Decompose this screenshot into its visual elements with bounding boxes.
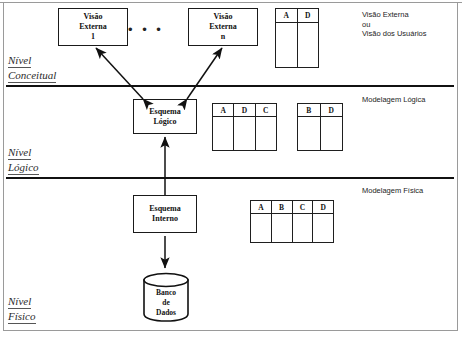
annotation-line-2: ou	[362, 20, 426, 30]
ellipsis-more-views: • • •	[128, 23, 164, 36]
frame-bottom-border	[4, 330, 458, 331]
annotation-line-3: Visão dos Usuários	[362, 29, 426, 39]
annotation-line-1: Modelagem Física	[362, 186, 423, 196]
table-cell-body	[276, 23, 298, 67]
table-cell-body	[256, 117, 276, 150]
database-label-line1: Banco	[143, 288, 189, 298]
annotation-visao-externa-usuarios: Visão Externa ou Visão dos Usuários	[362, 10, 426, 39]
box-visao-externa-1-line2: Externa	[79, 22, 107, 32]
box-visao-externa-n-line1: Visão	[214, 12, 233, 22]
level-label-logico-line1: Nível	[8, 146, 31, 160]
table-tabela-logica-1-body	[213, 117, 276, 150]
table-cell-header: A	[276, 9, 298, 22]
level-label-logico-line2: Lógico	[8, 161, 39, 175]
box-visao-externa-1-line3: 1	[91, 32, 95, 42]
table-cell-body	[321, 117, 343, 150]
table-cell-body	[293, 214, 314, 242]
diagram-canvas: Nível Conceitual Nível Lógico Nível Físi…	[0, 0, 462, 339]
divider-logico-fisico	[6, 177, 454, 179]
frame-left-border	[3, 2, 4, 331]
box-visao-externa-n-line2: Externa	[209, 22, 237, 32]
table-cell-header: A	[251, 201, 272, 213]
annotation-line-1: Modelagem Lógica	[362, 95, 425, 105]
level-label-fisico-line1: Nível	[8, 295, 31, 309]
box-esquema-interno-line1: Esquema	[149, 204, 181, 214]
level-label-fisico: Nível Físico	[8, 295, 36, 325]
table-cell-header: D	[298, 9, 319, 22]
annotation-line-1: Visão Externa	[362, 10, 426, 20]
table-cell-header: C	[256, 104, 276, 116]
database-label-line2: de	[143, 298, 189, 308]
table-cell-header: B	[272, 201, 293, 213]
arrow-layer: Visao Externa 1 (double headed, diagonal…	[0, 0, 462, 339]
level-label-conceitual: Nível Conceitual	[8, 54, 56, 84]
box-visao-externa-n-line3: n	[221, 32, 225, 42]
table-tabela-logica-2-body	[298, 117, 342, 150]
box-visao-externa-n[interactable]: Visão Externa n	[188, 8, 258, 46]
table-cell-header: D	[234, 104, 255, 116]
annotation-modelagem-logica: Modelagem Lógica	[362, 95, 425, 105]
table-cell-header: A	[213, 104, 234, 116]
box-esquema-interno-line2: Interno	[152, 214, 178, 224]
table-tabela-externa: A D	[275, 8, 319, 68]
level-label-logico: Nível Lógico	[8, 146, 39, 176]
table-cell-body	[272, 214, 293, 242]
table-tabela-fisica-header: A B C D	[251, 201, 333, 214]
table-cell-body	[298, 23, 319, 67]
table-cell-header: C	[293, 201, 314, 213]
table-cell-header: D	[321, 104, 343, 116]
table-cell-body	[234, 117, 255, 150]
annotation-modelagem-fisica: Modelagem Física	[362, 186, 423, 196]
box-visao-externa-1-line1: Visão	[84, 12, 103, 22]
database-cylinder: Banco de Dados	[143, 272, 189, 322]
table-tabela-fisica: A B C D	[250, 200, 334, 243]
table-cell-header: D	[313, 201, 333, 213]
box-esquema-logico-line2: Lógico	[153, 117, 176, 127]
table-tabela-externa-header: A D	[276, 9, 318, 23]
level-label-fisico-line2: Físico	[8, 310, 36, 324]
table-tabela-externa-body	[276, 23, 318, 67]
box-esquema-logico-line1: Esquema	[149, 107, 181, 117]
database-label-line3: Dados	[143, 308, 189, 318]
table-cell-body	[298, 117, 321, 150]
box-visao-externa-1[interactable]: Visão Externa 1	[58, 8, 128, 46]
box-esquema-interno[interactable]: Esquema Interno	[133, 195, 197, 233]
table-cell-body	[313, 214, 333, 242]
arrow-logico-to-visao1	[96, 48, 143, 99]
table-tabela-logica-1-header: A D C	[213, 104, 276, 117]
box-esquema-logico[interactable]: Esquema Lógico	[133, 99, 197, 134]
table-tabela-logica-2-header: B D	[298, 104, 342, 117]
table-tabela-logica-1: A D C	[212, 103, 277, 151]
frame-right-border	[457, 2, 458, 331]
divider-conceitual-logico	[6, 85, 454, 87]
table-cell-body	[213, 117, 234, 150]
level-label-conceitual-line1: Nível	[8, 54, 31, 68]
frame-top-border	[0, 2, 462, 3]
level-label-conceitual-line2: Conceitual	[8, 69, 56, 83]
table-cell-body	[251, 214, 272, 242]
arrow-logico-to-visaon	[187, 48, 222, 99]
table-cell-header: B	[298, 104, 321, 116]
table-tabela-logica-2: B D	[297, 103, 343, 151]
table-tabela-fisica-body	[251, 214, 333, 242]
